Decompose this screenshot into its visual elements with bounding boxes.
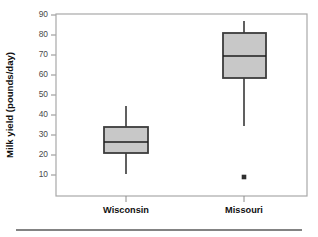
y-axis-title: Milk yield (pounds/day) — [4, 52, 15, 158]
boxplot-chart: 90 80 70 60 50 40 30 20 10 Milk yield (p… — [0, 0, 318, 237]
y-tick-label-90: 90 — [39, 9, 49, 19]
y-tick-label-80: 80 — [39, 29, 49, 39]
y-tick-label-30: 30 — [39, 129, 49, 139]
box-wisconsin — [104, 127, 148, 153]
y-tick-label-50: 50 — [39, 89, 49, 99]
y-tick-label-60: 60 — [39, 69, 49, 79]
y-tick-label-10: 10 — [39, 169, 49, 179]
x-axis-label-wisconsin: Wisconsin — [103, 205, 149, 215]
figure-container: 90 80 70 60 50 40 30 20 10 Milk yield (p… — [0, 0, 318, 237]
y-tick-label-70: 70 — [39, 49, 49, 59]
outlier-marker-missouri — [242, 175, 246, 179]
x-axis-label-missouri: Missouri — [225, 205, 263, 215]
y-tick-label-20: 20 — [39, 149, 49, 159]
y-tick-label-40: 40 — [39, 109, 49, 119]
y-axis-tick-labels: 90 80 70 60 50 40 30 20 10 — [39, 9, 49, 179]
